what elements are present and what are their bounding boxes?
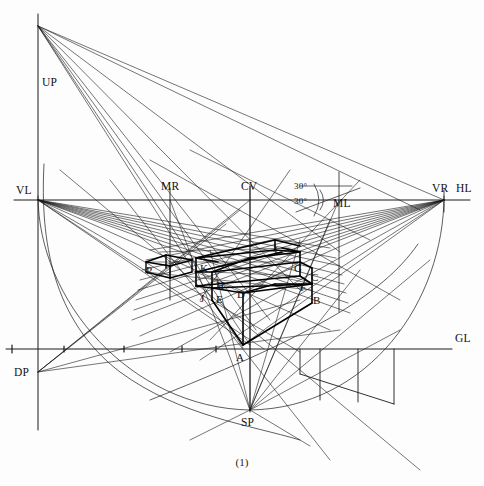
vertex-label-l-10: L [274,244,281,256]
reference-label-hl-6: HL [456,182,472,194]
vertex-label-c-2: C [311,271,319,283]
vertex-label-f-5: F [300,281,306,293]
reference-label-cv-3: CV [241,180,257,192]
reference-label-up-0: UP [42,76,57,88]
reference-label-sp-9: SP [241,416,254,428]
station-arc-secondary [43,164,300,440]
vertex-label-a-0: A [236,351,244,363]
reference-label-ml-4: ML [333,197,351,209]
vertex-label-e-4: E [216,293,223,305]
grid-below-ground-line [300,349,394,404]
vertex-label-p-11: P [146,264,152,276]
figure-canvas: UPVLMRCVMLVRHLGLDPSP 30°30° ABCDEFGHJKLP… [0,0,484,486]
reference-label-gl-7: GL [455,332,471,344]
vertex-label-h-7: H [216,279,224,291]
ray-fan-sp [170,186,430,446]
reference-label-vr-5: VR [432,182,448,194]
reference-label-vl-1: VL [16,184,32,196]
angle-label-30-0: 30° [294,181,307,191]
angle-label-30-1: 30° [294,196,307,206]
vertex-label-k-9: K [200,262,208,274]
figure-caption: (1) [0,456,484,468]
reference-label-dp-8: DP [14,366,29,378]
vertex-label-g-6: G [294,262,302,274]
perspective-construction-drawing [0,0,484,486]
vertex-label-b-1: B [313,294,321,306]
vertex-label-j-8: J [200,292,204,304]
reference-label-mr-2: MR [161,180,179,192]
vertex-label-d-3: D [237,288,245,300]
station-arc-major [38,196,444,410]
